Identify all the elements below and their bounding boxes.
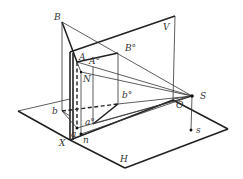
label-B0: B° [124, 43, 136, 53]
label-b: b [52, 106, 58, 116]
label-X: X [58, 138, 66, 148]
label-H: H [119, 154, 128, 164]
point-s-station [190, 94, 194, 98]
projection-diagram: B A A° B° N V S O s b b° a° a n X H [0, 0, 243, 179]
label-s: s [196, 125, 201, 135]
label-N: N [82, 74, 92, 84]
point-s-ground [190, 129, 193, 132]
label-O: O [176, 100, 184, 110]
label-B: B [53, 12, 61, 22]
label-b0: b° [122, 90, 132, 100]
label-a: a [71, 129, 76, 139]
label-A: A [78, 52, 86, 62]
label-V: V [163, 22, 171, 32]
label-A0: A° [88, 56, 100, 66]
point-N [80, 71, 82, 73]
label-a0: a° [85, 117, 95, 127]
label-n: n [83, 135, 89, 145]
label-S: S [200, 91, 206, 101]
